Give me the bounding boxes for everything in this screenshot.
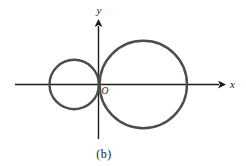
diagram-svg: y x O (b)	[0, 0, 246, 166]
figure-caption: (b)	[96, 147, 112, 161]
figure: y x O (b)	[0, 0, 246, 166]
y-axis-label: y	[96, 4, 102, 16]
x-axis-label: x	[229, 78, 235, 90]
origin-label: O	[102, 86, 109, 96]
